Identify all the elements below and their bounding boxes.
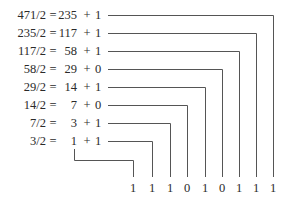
quotient: 1: [58, 133, 77, 149]
connector-row-8: [108, 142, 153, 178]
quotient: 117: [58, 25, 77, 41]
binary-digit: 1: [200, 180, 210, 196]
plus-sign: +: [83, 25, 91, 41]
plus-sign: +: [83, 79, 91, 95]
connector-row-7: [108, 124, 171, 178]
binary-digit: 0: [217, 180, 227, 196]
connector-final-quotient: [75, 149, 134, 177]
equals-sign: =: [49, 133, 57, 149]
remainder: 1: [94, 7, 102, 23]
remainder: 0: [94, 61, 102, 77]
binary-conversion-diagram: 471/2 = 235 + 1 235/2 = 117 + 1 117/2 = …: [0, 0, 287, 200]
connector-row-3: [108, 52, 240, 178]
equals-sign: =: [49, 97, 57, 113]
dividend: 117/2: [0, 43, 46, 59]
remainder: 1: [94, 43, 102, 59]
dividend: 58/2: [0, 61, 46, 77]
dividend: 14/2: [0, 97, 46, 113]
dividend: 29/2: [0, 79, 46, 95]
equals-sign: =: [49, 25, 57, 41]
binary-digit: 1: [268, 180, 278, 196]
equals-sign: =: [49, 115, 57, 131]
connector-row-1: [108, 16, 274, 178]
binary-digit: 1: [251, 180, 261, 196]
equals-sign: =: [49, 61, 57, 77]
plus-sign: +: [83, 43, 91, 59]
remainder: 1: [94, 115, 102, 131]
quotient: 29: [58, 61, 77, 77]
connector-row-5: [108, 88, 206, 178]
equals-sign: =: [49, 7, 57, 23]
equals-sign: =: [49, 79, 57, 95]
binary-digit: 1: [147, 180, 157, 196]
dividend: 3/2: [0, 133, 46, 149]
binary-digit: 0: [182, 180, 192, 196]
plus-sign: +: [83, 115, 91, 131]
plus-sign: +: [83, 133, 91, 149]
binary-digit: 1: [165, 180, 175, 196]
binary-digit: 1: [128, 180, 138, 196]
plus-sign: +: [83, 7, 91, 23]
quotient: 58: [58, 43, 77, 59]
binary-digit: 1: [234, 180, 244, 196]
equals-sign: =: [49, 43, 57, 59]
dividend: 235/2: [0, 25, 46, 41]
remainder: 1: [94, 133, 102, 149]
quotient: 3: [58, 115, 77, 131]
plus-sign: +: [83, 97, 91, 113]
dividend: 7/2: [0, 115, 46, 131]
remainder: 0: [94, 97, 102, 113]
plus-sign: +: [83, 61, 91, 77]
quotient: 7: [58, 97, 77, 113]
quotient: 14: [58, 79, 77, 95]
dividend: 471/2: [0, 7, 46, 23]
quotient: 235: [58, 7, 77, 23]
remainder: 1: [94, 79, 102, 95]
remainder: 1: [94, 25, 102, 41]
